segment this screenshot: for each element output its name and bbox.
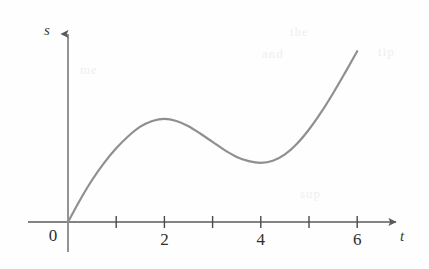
tick-label-6: 6 (347, 230, 367, 250)
y-axis-label: s (44, 22, 50, 39)
graph-figure: the tip and sup me s t 0 2 (0, 0, 429, 269)
curve-s-of-t (68, 51, 357, 222)
plot-area (0, 0, 429, 269)
tick-label-2: 2 (154, 230, 174, 250)
x-axis-label: t (400, 228, 404, 245)
origin-label: 0 (43, 226, 63, 246)
tick-label-4: 4 (251, 230, 271, 250)
